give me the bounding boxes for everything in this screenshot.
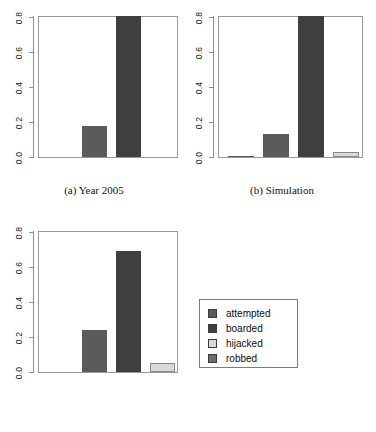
panel-b-tick-label-3: 0.6 [194,43,204,63]
legend: attempted boarded hijacked robbed [199,299,298,368]
panel-b-plot-frame [218,16,363,158]
panel-a-tick-4 [29,17,33,18]
panel-b-tick-label-1: 0.2 [194,113,204,133]
panel-c-tick-label-2: 0.4 [14,293,24,313]
legend-swatch-hijacked [208,339,217,348]
panel-b-bar-robbed [333,152,359,157]
panel-a-tick-label-1: 0.2 [14,113,24,133]
panel-b-tick-label-2: 0.4 [194,78,204,98]
panel-b-simulation: 0.0 0.2 0.4 0.6 0.8 (b) Simulation [188,0,376,205]
panel-c-tick-label-3: 0.6 [14,258,24,278]
legend-swatch-attempted [208,309,217,318]
panel-b-bar-hijacked [298,16,324,157]
panel-b-tick-label-0: 0.0 [194,148,204,168]
panel-a-tick-3 [29,52,33,53]
panel-a-year-2005: 0.0 0.2 0.4 0.6 0.8 (a) Year 2005 [0,0,188,205]
panel-b-bar-boarded [263,134,289,157]
panel-c-tick-1 [29,337,33,338]
panel-c-plot-area [39,232,177,372]
panel-c-tick-3 [29,267,33,268]
panel-c-bar-robbed [150,363,175,372]
panel-a-bar-hijacked [116,16,141,157]
panel-c-tick-label-0: 0.0 [14,363,24,383]
legend-item-hijacked[interactable]: hijacked [208,336,288,351]
panel-c-tick-0 [29,372,33,373]
panel-c-bar-hijacked [116,251,141,372]
panel-b-tick-4 [209,17,213,18]
panel-b-tick-label-4: 0.8 [194,8,204,28]
legend-label-attempted: attempted [226,309,270,319]
panel-c-tick-4 [29,232,33,233]
panel-c-year-2006: 0.0 0.2 0.4 0.6 0.8 (c) Year 2006 [0,215,188,420]
legend-item-boarded[interactable]: boarded [208,321,288,336]
panel-b-caption: (b) Simulation [188,184,376,196]
panel-b-bar-attempted [228,156,254,157]
panel-a-tick-1 [29,122,33,123]
legend-item-attempted[interactable]: attempted [208,306,288,321]
panel-c-plot-frame [38,231,178,373]
panel-c-tick-label-4: 0.8 [14,223,24,243]
panel-a-tick-label-3: 0.6 [14,43,24,63]
legend-label-boarded: boarded [226,324,263,334]
panel-c-bar-boarded [82,330,107,372]
panel-b-tick-0 [209,157,213,158]
panel-b-y-axis-line [213,16,214,158]
panel-a-tick-0 [29,157,33,158]
legend-swatch-robbed [208,354,217,363]
panel-b-tick-2 [209,87,213,88]
panel-c-y-axis-line [33,231,34,373]
panel-a-tick-2 [29,87,33,88]
figure-panel-group: 0.0 0.2 0.4 0.6 0.8 (a) Year 2005 0.0 0.… [0,0,376,432]
panel-c-tick-2 [29,302,33,303]
panel-b-plot-area [219,17,362,157]
legend-label-robbed: robbed [226,354,257,364]
panel-a-bar-boarded [82,126,107,157]
panel-a-tick-label-4: 0.8 [14,8,24,28]
legend-label-hijacked: hijacked [226,339,263,349]
panel-a-tick-label-2: 0.4 [14,78,24,98]
panel-a-plot-area [39,17,177,157]
legend-item-robbed[interactable]: robbed [208,351,288,366]
panel-a-tick-label-0: 0.0 [14,148,24,168]
panel-a-caption: (a) Year 2005 [0,184,188,196]
legend-swatch-boarded [208,324,217,333]
panel-b-tick-1 [209,122,213,123]
panel-a-plot-frame [38,16,178,158]
panel-a-y-axis-line [33,16,34,158]
panel-b-tick-3 [209,52,213,53]
panel-c-tick-label-1: 0.2 [14,328,24,348]
